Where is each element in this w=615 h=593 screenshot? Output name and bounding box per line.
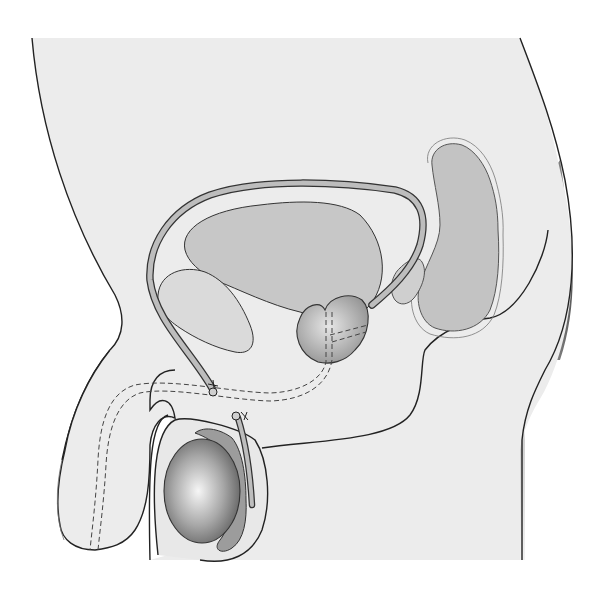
anatomy-figure xyxy=(0,0,615,593)
testis xyxy=(164,439,240,543)
